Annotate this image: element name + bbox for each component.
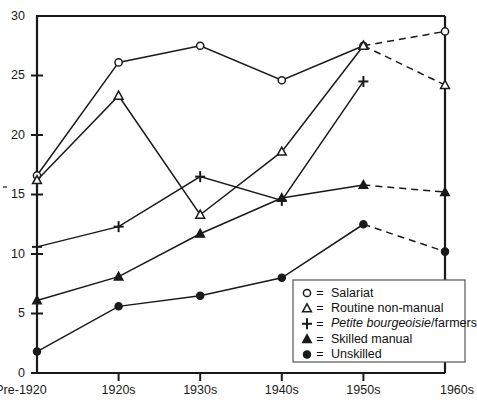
- series-path-solid: [37, 46, 363, 176]
- legend-equals: =: [316, 332, 323, 346]
- legend-label: Skilled manual: [331, 332, 412, 346]
- legend-label: Unskilled: [331, 347, 382, 361]
- x-tick-label: 1930s: [183, 383, 217, 397]
- chart-legend: =Salariat=Routine non-manual=Petite bour…: [293, 280, 477, 362]
- x-axis-tick-labels: Pre-19201920s1930s1940s1950s1960s: [0, 383, 474, 397]
- data-point: [360, 221, 367, 228]
- x-tick-label: 1920s: [102, 383, 136, 397]
- legend-marker: [303, 289, 310, 296]
- legend-label: Routine non-manual: [331, 301, 444, 315]
- data-point: [114, 91, 123, 99]
- legend-label: Petite bourgeoisie/farmers: [331, 317, 477, 331]
- data-point: [278, 274, 285, 281]
- y-tick-label: 0: [18, 366, 25, 380]
- x-tick-label: 1960s: [440, 383, 474, 397]
- legend-equals: =: [316, 301, 323, 315]
- chart-container: 051015202530 Pre-19201920s1930s1940s1950…: [0, 0, 477, 413]
- series-routine-non-manual: [33, 41, 450, 218]
- legend-equals: =: [316, 286, 323, 300]
- x-axis-ticks: [119, 373, 364, 381]
- data-point: [441, 248, 448, 255]
- y-tick-label: 10: [11, 247, 25, 261]
- data-point: [115, 303, 122, 310]
- data-point: [278, 77, 285, 84]
- y-tick-label: 15: [11, 187, 25, 201]
- scan-speck: [3, 186, 7, 188]
- data-point: [195, 171, 205, 182]
- y-axis-tick-labels: 051015202530: [11, 9, 25, 380]
- data-point: [197, 292, 204, 299]
- data-point: [359, 180, 368, 188]
- series-path-solid: [37, 81, 363, 246]
- data-point: [197, 42, 204, 49]
- line-chart: 051015202530 Pre-19201920s1930s1940s1950…: [0, 0, 477, 413]
- series-path-dashed: [363, 185, 445, 192]
- y-tick-label: 30: [11, 9, 25, 23]
- data-point: [114, 272, 123, 280]
- series-path-dashed: [363, 31, 445, 45]
- legend-equals: =: [316, 347, 323, 361]
- x-tick-label: 1940s: [265, 383, 299, 397]
- y-tick-label: 5: [18, 306, 25, 320]
- y-tick-label: 25: [11, 68, 25, 82]
- series-salariat: [33, 28, 448, 179]
- data-point: [32, 241, 42, 252]
- x-tick-label: Pre-1920: [0, 383, 47, 397]
- series-path-solid: [37, 46, 363, 215]
- data-point: [33, 348, 40, 355]
- legend-marker: [303, 351, 310, 358]
- data-point: [115, 59, 122, 66]
- legend-equals: =: [316, 317, 323, 331]
- data-point: [114, 221, 124, 232]
- data-point: [441, 28, 448, 35]
- data-point: [441, 80, 450, 88]
- series-path-dashed: [363, 224, 445, 251]
- legend-label: Salariat: [331, 286, 374, 300]
- x-tick-label: 1950s: [346, 383, 380, 397]
- series-petite-bourgeoisie-farmers: [32, 76, 368, 252]
- series-path-dashed: [363, 46, 445, 85]
- y-tick-label: 20: [11, 128, 25, 142]
